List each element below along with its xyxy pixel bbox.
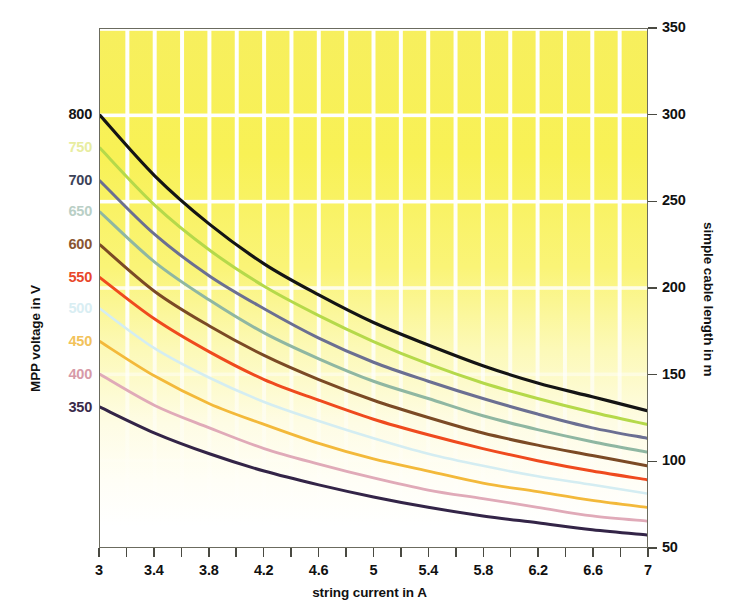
y-axis-right-tick-200: 200 [662, 279, 686, 295]
y-axis-right-tickmark [648, 461, 657, 463]
y-axis-right-title: simple cable length in m [701, 222, 716, 376]
x-axis-tickmark [455, 548, 457, 557]
x-axis-tick-5.8: 5.8 [463, 562, 503, 578]
plot-canvas [100, 29, 647, 547]
y-axis-right-tick-250: 250 [662, 192, 686, 208]
x-axis-tickmark [345, 548, 347, 557]
x-axis-tickmark [181, 548, 183, 557]
y-axis-right-tick-300: 300 [662, 106, 686, 122]
x-axis-tickmark [620, 548, 622, 557]
y-axis-right-tick-350: 350 [662, 19, 686, 35]
y-axis-left-tick-650: 650 [48, 203, 92, 219]
y-axis-right-tickmark [648, 374, 657, 376]
x-axis-tickmark [483, 548, 485, 557]
x-axis-tickmark [592, 548, 594, 557]
plot-area [99, 28, 648, 548]
y-axis-right-tick-50: 50 [662, 539, 678, 555]
y-axis-right-tick-100: 100 [662, 452, 686, 468]
chart-figure: 800750700650600550500450400350 350300250… [0, 0, 739, 612]
y-axis-left-tick-750: 750 [48, 139, 92, 155]
x-axis-tickmark [98, 548, 100, 557]
y-axis-right-tickmark [648, 547, 657, 549]
x-axis-tickmark [126, 548, 128, 557]
y-axis-left-tick-550: 550 [48, 269, 92, 285]
x-axis-tick-6.2: 6.2 [518, 562, 558, 578]
x-axis-tickmark [318, 548, 320, 557]
y-axis-right-tickmark [648, 201, 657, 203]
x-axis-tick-4.2: 4.2 [244, 562, 284, 578]
y-axis-left-tick-600: 600 [48, 236, 92, 252]
x-axis-tickmark [565, 548, 567, 557]
x-axis-title: string current in A [0, 585, 739, 600]
y-axis-left-tick-700: 700 [48, 172, 92, 188]
x-axis-tick-3.4: 3.4 [134, 562, 174, 578]
x-axis-tick-4.6: 4.6 [299, 562, 339, 578]
x-axis-tickmark [400, 548, 402, 557]
x-axis-tick-5.4: 5.4 [408, 562, 448, 578]
x-axis-tickmark [208, 548, 210, 557]
x-axis-tickmark [510, 548, 512, 557]
x-axis-tickmark [263, 548, 265, 557]
y-axis-left-tick-350: 350 [48, 399, 92, 415]
y-axis-right-tickmark [648, 114, 657, 116]
y-axis-left-tick-450: 450 [48, 333, 92, 349]
gridlines [100, 29, 647, 547]
x-axis-tick-6.6: 6.6 [573, 562, 613, 578]
x-axis-tickmark [290, 548, 292, 557]
y-axis-left-tick-400: 400 [48, 366, 92, 382]
x-axis-tick-3.8: 3.8 [189, 562, 229, 578]
x-axis-tick-3: 3 [79, 562, 119, 578]
x-axis-tick-5: 5 [354, 562, 394, 578]
y-axis-right-tickmark [648, 287, 657, 289]
x-axis-tickmark [373, 548, 375, 557]
y-axis-left-title: MPP voltage in V [28, 285, 43, 392]
x-axis-tickmark [235, 548, 237, 557]
y-axis-right-tickmark [648, 27, 657, 29]
x-axis-tick-7: 7 [628, 562, 668, 578]
x-axis-tickmark [428, 548, 430, 557]
y-axis-right-tick-150: 150 [662, 366, 686, 382]
x-axis-tickmark [537, 548, 539, 557]
y-axis-left-tick-800: 800 [48, 106, 92, 122]
y-axis-left-tick-500: 500 [48, 300, 92, 316]
x-axis-tickmark [647, 548, 649, 557]
x-axis-tickmark [153, 548, 155, 557]
